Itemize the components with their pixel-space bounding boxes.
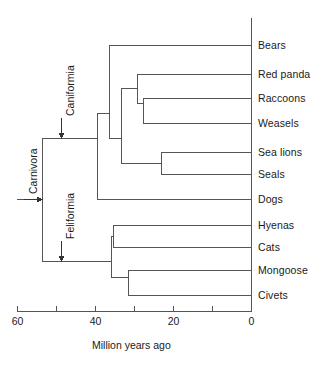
- tip-label-hyenas: Hyenas: [258, 220, 294, 231]
- axis-tick-label-0: 0: [236, 316, 267, 327]
- tip-label-red-panda: Red panda: [258, 69, 310, 80]
- axis-tick-label-20: 20: [158, 316, 189, 327]
- tree-drawing: [0, 0, 321, 365]
- tip-label-seals: Seals: [258, 169, 285, 180]
- axis-tick-label-40: 40: [80, 316, 111, 327]
- clade-label-carnivora: Carnivora: [28, 148, 39, 194]
- tip-label-mongoose: Mongoose: [258, 265, 308, 276]
- tip-label-dogs: Dogs: [258, 194, 283, 205]
- tip-label-weasels: Weasels: [258, 118, 299, 129]
- clade-label-feliformia: Feliformia: [65, 193, 76, 239]
- axis-tick-label-60: 60: [2, 316, 33, 327]
- tip-label-cats: Cats: [258, 242, 280, 253]
- tip-label-sea-lions: Sea lions: [258, 147, 302, 158]
- phylogenetic-tree-figure: Caniformia Carnivora Feliformia Bears Re…: [0, 0, 321, 365]
- tip-label-raccoons: Raccoons: [258, 93, 306, 104]
- tip-label-civets: Civets: [258, 290, 288, 301]
- axis-title-million-years-ago: Million years ago: [92, 340, 171, 351]
- clade-label-caniformia: Caniformia: [65, 65, 76, 116]
- tip-label-bears: Bears: [258, 40, 286, 51]
